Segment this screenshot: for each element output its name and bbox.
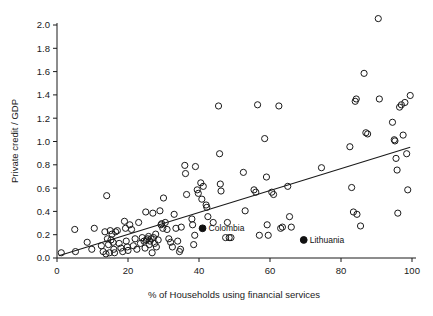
- data-point: [394, 167, 400, 173]
- y-tick-label: 1.2: [37, 113, 50, 124]
- data-point: [199, 196, 205, 202]
- data-point: [279, 224, 285, 230]
- data-point: [143, 209, 149, 215]
- data-point: [205, 214, 211, 220]
- data-point: [361, 70, 367, 76]
- data-point: [407, 92, 413, 98]
- data-point: [89, 246, 95, 252]
- data-point: [192, 232, 198, 238]
- y-tick-label: 0.8: [37, 159, 50, 170]
- data-points: [58, 15, 413, 257]
- data-point: [134, 246, 140, 252]
- y-tick-label: 1.4: [37, 89, 50, 100]
- data-point: [288, 224, 294, 230]
- data-point: [404, 151, 410, 157]
- data-point: [104, 193, 110, 199]
- data-point: [160, 195, 166, 201]
- y-tick-label: 0.2: [37, 229, 50, 240]
- data-point: [256, 232, 262, 238]
- x-tick-label: 100: [404, 265, 420, 276]
- data-point: [84, 239, 90, 245]
- y-tick-label: 0.0: [37, 252, 50, 263]
- data-point: [216, 151, 222, 157]
- data-point: [218, 188, 224, 194]
- highlighted-data-point-lithuania: [300, 237, 307, 244]
- data-point: [195, 190, 201, 196]
- data-point: [150, 210, 156, 216]
- x-tick-label: 0: [54, 265, 59, 276]
- y-axis-title: Private credit / GDP: [9, 99, 20, 183]
- scatter-plot-figure: 0.00.20.40.60.81.01.21.41.61.82.0 020406…: [0, 0, 433, 316]
- data-point: [192, 163, 198, 169]
- data-point: [240, 169, 246, 175]
- data-point: [183, 191, 189, 197]
- data-point: [130, 243, 136, 249]
- data-point: [357, 223, 363, 229]
- data-point: [182, 162, 188, 168]
- data-point: [395, 210, 401, 216]
- data-point: [149, 250, 155, 256]
- y-tick-label: 1.8: [37, 43, 50, 54]
- data-point: [114, 228, 120, 234]
- data-point: [264, 222, 270, 228]
- y-axis: 0.00.20.40.60.81.01.21.41.61.82.0: [37, 19, 57, 263]
- data-point: [132, 236, 138, 242]
- annotation-label-lithuania: Lithuania: [310, 235, 345, 245]
- data-point: [276, 103, 282, 109]
- chart-canvas: 0.00.20.40.60.81.01.21.41.61.82.0 020406…: [0, 0, 433, 316]
- y-tick-label: 0.6: [37, 183, 50, 194]
- data-point: [389, 119, 395, 125]
- x-tick-label: 40: [194, 265, 205, 276]
- x-tick-label: 20: [123, 265, 134, 276]
- data-point: [286, 214, 292, 220]
- data-point: [405, 187, 411, 193]
- data-point: [376, 96, 382, 102]
- x-tick-label: 80: [336, 265, 347, 276]
- data-point: [393, 155, 399, 161]
- data-point: [347, 144, 353, 150]
- y-tick-label: 0.4: [37, 206, 50, 217]
- data-point: [242, 208, 248, 214]
- data-point: [164, 226, 170, 232]
- data-point: [365, 131, 371, 137]
- data-point: [175, 238, 181, 244]
- data-point: [142, 245, 148, 251]
- data-point: [157, 208, 163, 214]
- data-point: [191, 242, 197, 248]
- x-axis: 020406080100: [54, 258, 420, 276]
- data-point: [262, 135, 268, 141]
- data-point: [353, 96, 359, 102]
- data-point: [400, 132, 406, 138]
- annotation-label-colombia: Colombia: [209, 223, 245, 233]
- data-point: [98, 243, 104, 249]
- data-point: [254, 102, 260, 108]
- data-point: [123, 238, 129, 244]
- x-axis-title: % of Households using financial services: [148, 289, 320, 300]
- x-tick-label: 60: [265, 265, 276, 276]
- data-point: [189, 216, 195, 222]
- data-point: [375, 15, 381, 21]
- data-point: [215, 103, 221, 109]
- data-point: [285, 183, 291, 189]
- data-point: [265, 232, 271, 238]
- data-point: [91, 225, 97, 231]
- y-tick-label: 1.6: [37, 66, 50, 77]
- data-point: [349, 184, 355, 190]
- data-point: [263, 174, 269, 180]
- y-tick-label: 1.0: [37, 136, 50, 147]
- data-point: [217, 181, 223, 187]
- data-point: [177, 246, 183, 252]
- data-point: [136, 219, 142, 225]
- data-point: [182, 170, 188, 176]
- data-point: [190, 222, 196, 228]
- data-point: [318, 165, 324, 171]
- data-point: [171, 211, 177, 217]
- y-tick-label: 2.0: [37, 19, 50, 30]
- data-point: [72, 226, 78, 232]
- highlighted-data-point-colombia: [199, 225, 206, 232]
- data-point: [122, 225, 128, 231]
